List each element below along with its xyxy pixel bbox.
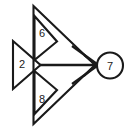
bottom-triangle-label: 8	[39, 93, 45, 105]
left-triangle-shape[interactable]	[13, 41, 41, 89]
top-triangle-shape[interactable]	[35, 16, 58, 60]
target-circle-label: 7	[107, 60, 113, 72]
top-triangle-label: 6	[39, 27, 45, 39]
diagram-canvas: 2 6 8 7	[0, 0, 125, 128]
bottom-triangle-shape[interactable]	[35, 71, 58, 114]
node-arrow-diagram: 2 6 8 7	[0, 0, 125, 128]
left-triangle-label: 2	[19, 58, 25, 70]
